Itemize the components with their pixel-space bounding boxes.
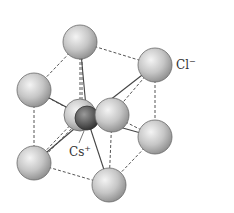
cl-ion-front-center: [95, 98, 129, 132]
cl-label: Cl−: [176, 57, 196, 72]
cs-label-pointer: [79, 131, 84, 143]
cl-label-text: Cl: [176, 58, 189, 72]
cl-ion-top: [63, 25, 97, 59]
cl-ion-right-upper: [138, 48, 172, 82]
cl-charge: −: [189, 57, 196, 66]
cl-ion-bottom: [92, 168, 126, 202]
cs-charge: +: [84, 144, 91, 153]
cl-ion-left-upper: [17, 73, 51, 107]
cs-label: Cs+: [69, 144, 91, 159]
cl-ion-left-lower: [17, 146, 51, 180]
cs-label-text: Cs: [69, 145, 84, 159]
cscl-unit-cell-diagram: [0, 0, 234, 213]
cl-ion-right-lower: [138, 120, 172, 154]
